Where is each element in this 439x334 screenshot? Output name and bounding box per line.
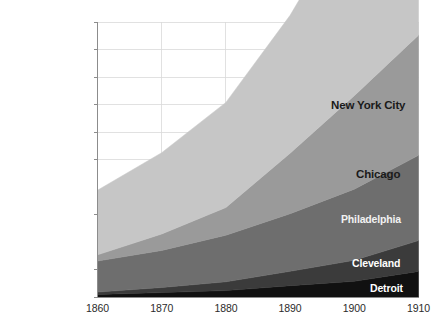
- y-axis: 5,000,0004,500,0004,000,0003,500,0002,00…: [0, 0, 91, 334]
- series-label-philadelphia: Philadelphia: [341, 214, 401, 225]
- series-label-new-york-city: New York City: [331, 100, 405, 112]
- x-axis-tick-label: 1880: [196, 302, 256, 314]
- x-axis-tick-label: 1890: [260, 302, 320, 314]
- x-axis: 186018701880189019001910: [0, 302, 439, 324]
- series-label-chicago: Chicago: [356, 169, 400, 181]
- x-axis-tick-label: 1870: [132, 302, 192, 314]
- series-label-cleveland: Cleveland: [352, 258, 400, 269]
- x-axis-tick-label: 1900: [324, 302, 384, 314]
- series-label-detroit: Detroit: [370, 283, 403, 294]
- area-bands: [98, 0, 419, 297]
- x-axis-tick-label: 1910: [389, 302, 439, 314]
- stacked-area-chart: 5,000,0004,500,0004,000,0003,500,0002,00…: [0, 0, 439, 334]
- x-axis-tick-label: 1860: [68, 302, 128, 314]
